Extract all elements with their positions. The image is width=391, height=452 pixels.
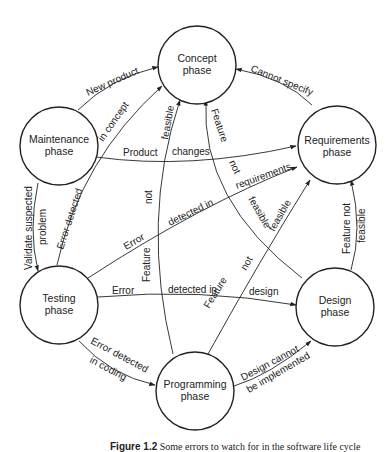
label-validate-suspected: Validate suspected [23,186,34,270]
label-detected-in-req: detected in [166,196,215,227]
label-feature-not-design-req: Feature not [341,203,352,254]
label-cannot-specify: Cannot specify [249,63,314,98]
label-not-design-concept: not [227,158,243,175]
node-programming-phase: Programming phase [156,352,234,430]
svg-text:phase: phase [323,146,352,158]
label-changes: changes [172,146,210,157]
label-problem: problem [37,209,48,245]
svg-text:Programming: Programming [163,378,226,390]
figure-caption: Figure 1.2 Some errors to watch for in t… [110,441,391,452]
svg-text:phase: phase [183,64,212,76]
label-error-detected-concept: Error detected [54,187,84,251]
caption-label: Figure 1.2 [110,441,157,452]
svg-text:phase: phase [321,306,350,318]
svg-text:Concept: Concept [177,52,216,64]
node-design-phase: Design phase [296,268,374,346]
label-requirements: requirements [234,161,293,191]
svg-text:phase: phase [181,390,210,402]
svg-text:Requirements: Requirements [304,134,369,146]
label-not-prog-concept: not [143,190,154,204]
svg-text:phase: phase [45,145,74,157]
svg-text:phase: phase [45,304,74,316]
label-not-prog-req: not [238,254,255,272]
node-maintenance-phase: Maintenance phase [20,107,98,185]
svg-text:Testing: Testing [42,292,75,304]
label-in-concept: in concept [96,99,131,143]
caption-text: Some errors to watch for in the software… [160,441,361,452]
label-design: design [249,286,278,297]
label-feature-prog-concept: Feature [141,247,152,282]
svg-text:Maintenance: Maintenance [29,133,89,145]
label-new-product: New product [84,65,140,98]
node-requirements-phase: Requirements phase [298,106,376,184]
label-product: Product [123,147,158,158]
label-feasible-prog-req: feasible [266,197,293,233]
label-feasible-design-req: feasible [356,208,367,243]
svg-text:Design: Design [319,294,352,306]
label-error-design: Error [112,285,135,296]
label-feature-design-concept: Feature [209,107,230,144]
node-testing-phase: Testing phase [20,266,98,344]
node-concept-phase: Concept phase [158,26,236,104]
